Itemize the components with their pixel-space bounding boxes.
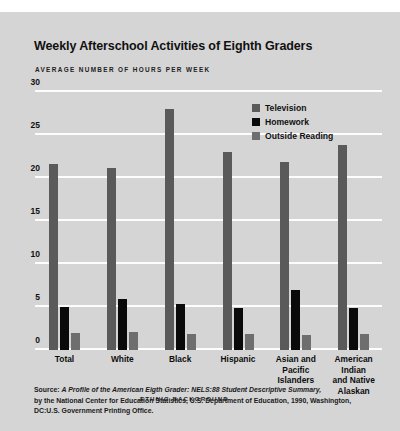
bar-reading[interactable] — [360, 334, 369, 350]
bar-group — [165, 92, 196, 350]
legend-item[interactable]: Outside Reading — [252, 129, 333, 142]
source-note: Source: A Profile of the American Eigth … — [34, 385, 374, 417]
bar-homework[interactable] — [234, 308, 243, 350]
source-note-line-2: by the National Center for Education Sta… — [34, 396, 374, 407]
bar-television[interactable] — [223, 152, 232, 350]
y-axis-tick-label-0: 0 — [0, 335, 40, 345]
bar-television[interactable] — [338, 145, 347, 350]
legend-label: Television — [265, 103, 306, 113]
bar-group — [49, 92, 80, 350]
legend-swatch-icon — [252, 118, 260, 126]
chart-figure-panel: Weekly Afterschool Activities of Eighth … — [0, 12, 400, 431]
bar-homework[interactable] — [60, 307, 69, 350]
gridline-15 — [35, 219, 382, 221]
gridline-5 — [35, 305, 382, 307]
legend-item[interactable]: Television — [252, 101, 333, 114]
bar-homework[interactable] — [118, 299, 127, 350]
bar-television[interactable] — [165, 109, 174, 350]
gridline-20 — [35, 176, 382, 178]
y-axis-tick-label-25: 25 — [0, 120, 40, 130]
bar-group — [107, 92, 138, 350]
bar-reading[interactable] — [71, 333, 80, 350]
source-note-line-3: DC:U.S. Government Printing Office. — [34, 406, 374, 417]
bar-reading[interactable] — [245, 334, 254, 350]
bar-television[interactable] — [280, 162, 289, 350]
chart-legend: TelevisionHomeworkOutside Reading — [252, 101, 333, 143]
source-note-prefix: Source: — [34, 386, 62, 393]
bar-group — [338, 92, 369, 350]
y-axis-tick-label-10: 10 — [0, 249, 40, 259]
y-axis-tick-label-5: 5 — [0, 292, 40, 302]
bar-homework[interactable] — [291, 290, 300, 350]
page-running-header — [0, 0, 400, 12]
bar-reading[interactable] — [302, 335, 311, 350]
legend-swatch-icon — [252, 132, 260, 140]
source-note-line-1: Source: A Profile of the American Eigth … — [34, 385, 374, 396]
chart-subtitle: AVERAGE NUMBER OF HOURS PER WEEK — [35, 66, 211, 73]
gridline-30 — [35, 90, 382, 92]
bar-reading[interactable] — [129, 332, 138, 350]
y-axis-tick-label-20: 20 — [0, 163, 40, 173]
legend-item[interactable]: Homework — [252, 115, 333, 128]
legend-label: Outside Reading — [265, 131, 333, 141]
chart-title: Weekly Afterschool Activities of Eighth … — [34, 39, 312, 53]
bar-homework[interactable] — [349, 308, 358, 350]
bar-television[interactable] — [49, 164, 58, 350]
y-axis-tick-label-15: 15 — [0, 206, 40, 216]
gridline-0 — [35, 348, 382, 350]
bar-reading[interactable] — [187, 334, 196, 350]
y-axis-tick-label-30: 30 — [0, 77, 40, 87]
bar-television[interactable] — [107, 168, 116, 350]
gridline-10 — [35, 262, 382, 264]
legend-swatch-icon — [252, 104, 260, 112]
bar-group — [223, 92, 254, 350]
legend-label: Homework — [265, 117, 309, 127]
bar-homework[interactable] — [176, 304, 185, 350]
source-note-title: A Profile of the American Eigth Grader: … — [62, 386, 322, 393]
